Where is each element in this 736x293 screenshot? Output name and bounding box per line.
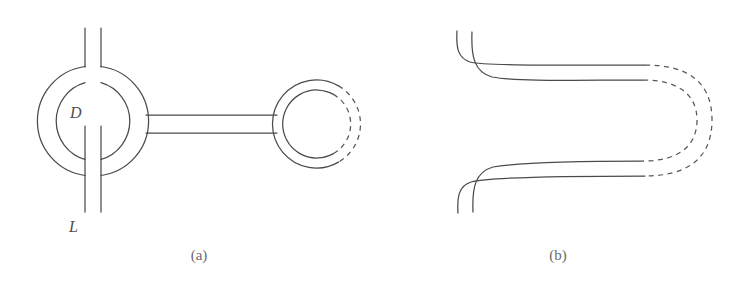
left-ring-outer-circle [37,67,148,176]
figure-root: D L (a) [0,0,736,293]
top-leg-lines [85,28,101,67]
outer-dashed-u-turn [645,65,712,176]
right-ring-inner-arc-solid [283,90,334,158]
left-ring-outer-arc-right [101,67,149,176]
upper-inner-curve [472,32,643,80]
bottom-leg-lines [85,126,101,212]
left-ring-inner-arc-left [56,83,85,160]
panel-b-caption: (b) [549,247,567,264]
panel-a-caption: (a) [191,247,208,264]
left-ring-outer-arc-left [37,67,85,176]
right-ring-inner-arc-dashed [333,94,350,153]
panel-a-group: D L (a) [37,28,360,264]
inner-dashed-u-turn [643,80,697,161]
diameter-label: D [69,104,82,121]
length-label: L [68,218,78,235]
left-ring-inner-arc-right [101,83,130,160]
connecting-tube [146,115,277,133]
figure-canvas: D L (a) [0,0,736,293]
lower-outer-curve [458,176,645,213]
left-ring-inner-circle [56,83,130,160]
upper-outer-curve [457,31,645,65]
right-ring-outer-arc-dashed [339,86,361,162]
lower-inner-curve [473,161,643,212]
panel-b-group: (b) [457,31,712,264]
